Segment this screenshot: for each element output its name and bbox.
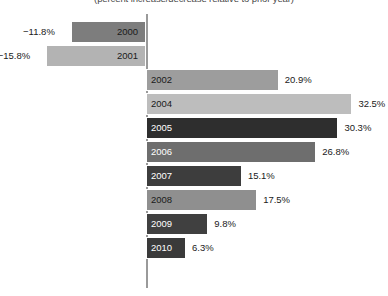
- bar-year-label-2007: 2007: [151, 171, 172, 181]
- bar-row: 200626.8%: [0, 141, 388, 163]
- bar-row: 2001−15.8%: [0, 45, 388, 67]
- bar-row: 200432.5%: [0, 93, 388, 115]
- bar-year-label-2001: 2001: [117, 51, 138, 61]
- bar-value-label-2006: 26.8%: [322, 147, 349, 157]
- bar-year-label-2000: 2000: [117, 27, 138, 37]
- plot-area: 2000−11.8%2001−15.8%200220.9%200432.5%20…: [0, 0, 388, 296]
- bar-row: 200817.5%: [0, 189, 388, 211]
- bar-row: 200530.3%: [0, 117, 388, 139]
- bar-value-label-2004: 32.5%: [358, 99, 385, 109]
- bar-value-label-2000: −11.8%: [23, 27, 55, 37]
- bar-row: 20106.3%: [0, 237, 388, 259]
- bar-year-label-2006: 2006: [151, 147, 172, 157]
- bar-value-label-2002: 20.9%: [285, 75, 312, 85]
- bar-value-label-2005: 30.3%: [344, 123, 371, 133]
- bar-year-label-2008: 2008: [151, 195, 172, 205]
- bar-value-label-2008: 17.5%: [263, 195, 290, 205]
- bar-chart: (percent increase/decrease relative to p…: [0, 0, 388, 296]
- bar-year-label-2005: 2005: [151, 123, 172, 133]
- bar-row: 2000−11.8%: [0, 21, 388, 43]
- bar-2004: [146, 93, 352, 115]
- bar-value-label-2007: 15.1%: [248, 171, 275, 181]
- bar-year-label-2004: 2004: [151, 99, 172, 109]
- bar-value-label-2001: −15.8%: [0, 51, 30, 61]
- bar-row: 20099.8%: [0, 213, 388, 235]
- bar-row: 200220.9%: [0, 69, 388, 91]
- bar-year-label-2009: 2009: [151, 219, 172, 229]
- bar-row: 200715.1%: [0, 165, 388, 187]
- bar-value-label-2010: 6.3%: [192, 243, 214, 253]
- bar-year-label-2002: 2002: [151, 75, 172, 85]
- bar-value-label-2009: 9.8%: [214, 219, 236, 229]
- bar-year-label-2010: 2010: [151, 243, 172, 253]
- bar-2005: [146, 117, 338, 139]
